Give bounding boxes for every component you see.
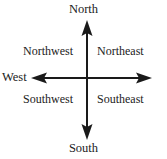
- label-northeast: Northeast: [97, 45, 144, 57]
- label-west: West: [2, 71, 27, 84]
- label-southeast: Southeast: [97, 93, 144, 105]
- label-northwest: Northwest: [23, 45, 73, 57]
- label-south: South: [0, 142, 167, 155]
- label-north: North: [0, 3, 167, 16]
- label-southwest: Southwest: [23, 93, 73, 105]
- compass-rose-diagram: North South West Northwest Northeast Sou…: [0, 0, 167, 159]
